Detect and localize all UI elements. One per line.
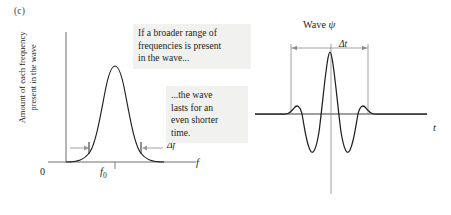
wave-packet-svg: [255, 14, 451, 199]
y-axis-label: Amount of each frequency present in the …: [17, 18, 40, 136]
callout-shorter-time: ...the wave lasts for an even shorter ti…: [166, 86, 248, 143]
delta-f-left-arrowhead: [84, 146, 89, 151]
origin-label: 0: [40, 166, 45, 177]
delta-t-right-arrowhead: [362, 46, 367, 50]
callout-broader-range: If a broader range of frequencies is pre…: [133, 24, 251, 69]
t-axis-label: t: [433, 122, 436, 133]
delta-t-left-arrowhead: [292, 46, 297, 50]
delta-f-right-arrowhead: [142, 146, 147, 151]
figure-panel-c: (c) Amount of each frequency present in …: [0, 0, 451, 215]
delta-t-label: Δt: [339, 39, 347, 49]
wave-packet-curve: [255, 52, 427, 152]
wave-packet-title: Wave ψ: [303, 18, 335, 30]
x-axis-label: f: [196, 157, 199, 168]
f0-label: f0: [100, 166, 107, 180]
psi-symbol: ψ: [328, 18, 335, 30]
wave-packet-plot: Wave ψ Δt t: [255, 14, 451, 199]
